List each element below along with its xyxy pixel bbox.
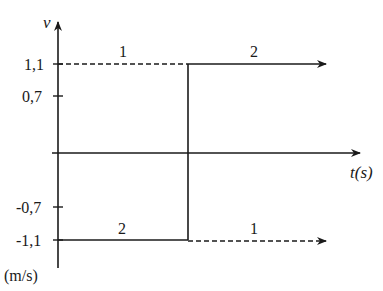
tick-label-0-7: 0,7 [22,88,42,105]
series1-top-label: 1 [119,43,127,60]
tick-label-m1-1: -1,1 [16,232,41,249]
y-axis-label: v [43,13,51,32]
unit-label: (m/s) [4,267,38,285]
tick-label-m0-7: -0,7 [16,199,41,216]
velocity-time-diagram: v t(s) (m/s) 1,1 0,7 -0,7 -1,1 1 2 2 1 [0,0,383,291]
x-axis-label: t(s) [350,163,373,182]
tick-label-1-1: 1,1 [24,56,44,73]
series1-bottom-label: 1 [250,220,258,237]
series2-bottom-label: 2 [118,220,126,237]
series2-top-label: 2 [250,43,258,60]
